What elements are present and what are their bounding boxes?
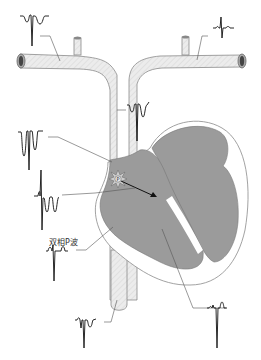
biphasic-p-wave-label: 双相P波 [49,236,78,247]
ecg-ivc [75,318,96,348]
ecg-low-ra [46,245,68,281]
ecg-rv [207,302,227,348]
right-branch-vessel [182,37,189,55]
heart-ecg-diagram: P [0,0,261,360]
ecg-high-ra [18,131,43,170]
sa-node-label: P [116,176,119,182]
ecg-left-arm [20,15,49,46]
inferior-vena-cava [111,250,127,310]
leader-high-ra [48,137,112,162]
left-branch-vessel [74,38,81,55]
ecg-mid-ra [34,170,59,230]
ecg-right-arm [213,17,234,38]
